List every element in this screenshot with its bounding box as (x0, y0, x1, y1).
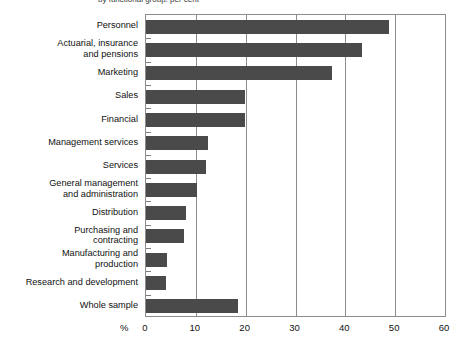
category-label-line: Research and development (0, 277, 138, 288)
gridline-20 (246, 15, 247, 316)
category-label-line: Actuarial, insurance (0, 38, 138, 49)
bar (146, 206, 186, 220)
category-label-line: Management services (0, 137, 138, 148)
x-tick-label: 40 (339, 322, 350, 333)
plot-area (145, 14, 446, 317)
category-label-line: Marketing (0, 67, 138, 78)
bar (146, 276, 166, 290)
row-tick (146, 178, 151, 179)
category-label-line: Purchasing and (0, 225, 138, 236)
row-tick (146, 132, 151, 133)
bar (146, 229, 184, 243)
bar (146, 299, 238, 313)
row-tick (146, 85, 151, 86)
category-label-line: production (0, 259, 138, 270)
bar (146, 90, 245, 104)
x-tick-label: 10 (190, 322, 201, 333)
bar-chart: by functional group: per cent PersonnelA… (0, 0, 458, 352)
category-label-line: and administration (0, 189, 138, 200)
category-label-line: General management (0, 178, 138, 189)
x-tick-label: 50 (389, 322, 400, 333)
row-tick (146, 62, 151, 63)
bar (146, 20, 389, 34)
bar (146, 253, 167, 267)
row-tick (146, 248, 151, 249)
bar (146, 160, 206, 174)
category-label-line: contracting (0, 235, 138, 246)
row-tick (146, 271, 151, 272)
x-tick-label: 0 (142, 322, 147, 333)
category-label: Management services (0, 137, 138, 148)
category-label: Personnel (0, 20, 138, 31)
category-label: Whole sample (0, 300, 138, 311)
category-label-line: Financial (0, 114, 138, 125)
gridline-40 (345, 15, 346, 316)
row-tick (146, 295, 151, 296)
x-axis: 0102030405060 (145, 317, 446, 339)
category-label-line: Manufacturing and (0, 248, 138, 259)
row-tick (146, 225, 151, 226)
chart-heading-cropped: by functional group: per cent (98, 0, 358, 5)
category-label: Purchasing andcontracting (0, 225, 138, 246)
x-axis-unit-label: % (120, 322, 128, 333)
bar (146, 113, 245, 127)
category-label: Sales (0, 90, 138, 101)
category-label: Services (0, 160, 138, 171)
bar (146, 136, 208, 150)
category-label: Financial (0, 114, 138, 125)
category-label-line: Sales (0, 90, 138, 101)
row-tick (146, 155, 151, 156)
category-label: Actuarial, insuranceand pensions (0, 38, 138, 59)
x-tick-label: 20 (239, 322, 250, 333)
row-tick (146, 38, 151, 39)
category-label: Manufacturing andproduction (0, 248, 138, 269)
bar (146, 43, 362, 57)
category-label-line: Distribution (0, 207, 138, 218)
x-tick-label: 30 (289, 322, 300, 333)
gridline-30 (296, 15, 297, 316)
category-label: Distribution (0, 207, 138, 218)
category-label-line: and pensions (0, 49, 138, 60)
category-label: General managementand administration (0, 178, 138, 199)
row-tick (146, 201, 151, 202)
bar (146, 66, 332, 80)
category-label: Research and development (0, 277, 138, 288)
category-label: Marketing (0, 67, 138, 78)
row-tick (146, 108, 151, 109)
category-label-line: Whole sample (0, 300, 138, 311)
category-label-line: Personnel (0, 20, 138, 31)
gridline-50 (395, 15, 396, 316)
bar (146, 183, 197, 197)
category-label-column: PersonnelActuarial, insuranceand pension… (0, 14, 143, 317)
category-label-line: Services (0, 160, 138, 171)
x-tick-label: 60 (439, 322, 450, 333)
